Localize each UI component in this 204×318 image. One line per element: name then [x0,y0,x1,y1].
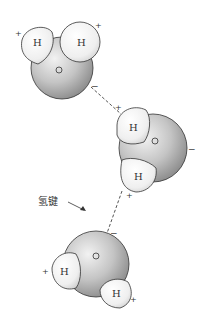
svg-text:+: + [130,295,137,304]
svg-text:H: H [60,266,69,277]
svg-text:H: H [129,122,138,133]
svg-text:−: − [91,81,99,91]
hydrogen-label: H [33,37,42,48]
svg-text:+: + [42,267,49,276]
diagram-canvas: H H + + − H H + + − H H + + [0,0,204,318]
svg-text:+: + [126,191,133,200]
hydrogen-bond-label: 氢键 [38,193,58,208]
water-molecule-2: H H + + − [115,103,196,200]
svg-text:H: H [134,171,143,182]
svg-text:+: + [115,103,122,112]
figure-caption [20,304,200,312]
hydrogen-label: H [77,37,86,48]
svg-text:−: − [188,144,196,154]
svg-text:+: + [15,29,22,38]
water-molecule-1: H H + + − [15,21,102,99]
water-molecule-3: H H + + − [42,228,137,308]
svg-text:+: + [95,21,102,30]
svg-text:−: − [110,228,118,238]
svg-text:H: H [112,288,121,299]
water-hydrogen-bond-diagram: H H + + − H H + + − H H + + [0,0,204,318]
